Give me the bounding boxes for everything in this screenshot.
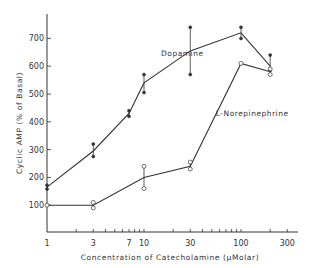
- series-label: L-Norepinephrine: [216, 109, 289, 118]
- data-point-filled: [240, 26, 243, 29]
- data-point-filled: [143, 73, 146, 76]
- data-point-open: [268, 67, 272, 71]
- labels-layer: Concentration of Catecholamine (μMolar)C…: [15, 49, 289, 262]
- x-tick-label: 30: [185, 239, 195, 248]
- data-point-open: [91, 206, 95, 210]
- data-point-open: [268, 73, 272, 77]
- x-tick-label: 1: [44, 239, 49, 248]
- data-point-filled: [127, 109, 130, 112]
- data-point-filled: [240, 37, 243, 40]
- data-point-open: [91, 200, 95, 204]
- series-label: Dopamine: [161, 49, 203, 58]
- data-point-open: [188, 160, 192, 164]
- y-tick-label: 700: [29, 34, 44, 43]
- data-point-open: [142, 164, 146, 168]
- y-tick-label: 200: [29, 173, 44, 182]
- data-point-filled: [92, 143, 95, 146]
- data-point-filled: [127, 115, 130, 118]
- y-tick-label: 600: [29, 62, 44, 71]
- x-axis-title-text: Concentration of Catecholamine (μMolar): [81, 253, 260, 262]
- x-tick-label: 3: [91, 239, 96, 248]
- x-tick-label: 100: [233, 239, 248, 248]
- data-point-filled: [269, 54, 272, 57]
- y-tick-label: 300: [29, 146, 44, 155]
- x-tick-label: 7: [126, 239, 131, 248]
- catecholamine-cyclic-amp-chart: 1002003004005006007001371030100300 Conce…: [0, 0, 314, 268]
- series-l-norepinephrine: [45, 61, 272, 210]
- y-tick-label: 100: [29, 201, 44, 210]
- data-point-filled: [143, 91, 146, 94]
- data-point-filled: [46, 188, 49, 191]
- data-point-open: [45, 203, 49, 207]
- series-line: [47, 63, 270, 205]
- x-tick-label: 10: [139, 239, 149, 248]
- data-point-filled: [189, 26, 192, 29]
- data-point-filled: [46, 184, 49, 187]
- data-point-filled: [92, 155, 95, 158]
- data-point-filled: [189, 73, 192, 76]
- data-point-open: [188, 167, 192, 171]
- y-tick-label: 400: [29, 118, 44, 127]
- data-point-open: [239, 61, 243, 65]
- x-tick-label: 300: [280, 239, 295, 248]
- plot-area: 1002003004005006007001371030100300 Conce…: [0, 0, 314, 268]
- series-dopamine: [46, 26, 272, 191]
- data-point-open: [142, 187, 146, 191]
- y-tick-label: 500: [29, 90, 44, 99]
- y-axis-title-text: Cyclic AMP (% of Basal): [15, 72, 24, 174]
